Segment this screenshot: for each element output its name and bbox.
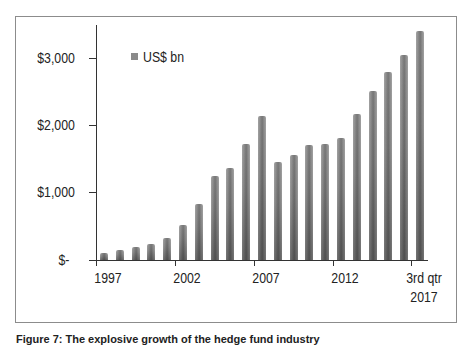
legend-label: US$ bn — [143, 47, 184, 66]
bar-2014 — [369, 91, 377, 260]
x-tick-label-3rd-qtr: 3rd qtr — [398, 268, 450, 287]
x-tick-label-2002: 2002 — [171, 268, 204, 287]
bar-3rd-qtr-2017 — [416, 31, 424, 260]
legend-swatch — [131, 53, 138, 60]
figure-caption: Figure 7: The explosive growth of the he… — [16, 333, 320, 345]
bar-1999 — [132, 247, 140, 260]
bar-2006 — [242, 144, 250, 260]
bar-2002 — [179, 225, 187, 260]
y-tick — [89, 58, 96, 59]
bar-1997 — [100, 253, 108, 260]
y-axis — [96, 25, 97, 261]
y-tick-label-0: $- — [58, 252, 69, 267]
bar-2007 — [258, 116, 266, 260]
x-tick — [411, 260, 412, 266]
bar-2012 — [337, 138, 345, 260]
bar-2010 — [305, 145, 313, 260]
y-tick-label-1000: $1,000 — [37, 184, 75, 199]
bar-2008 — [274, 162, 282, 260]
bar-2001 — [163, 238, 171, 260]
bar-1998 — [116, 250, 124, 260]
x-tick — [96, 260, 97, 266]
bar-2003 — [195, 204, 203, 260]
y-tick-label-3000: $3,000 — [37, 50, 75, 65]
x-tick — [333, 260, 334, 266]
bar-2016 — [400, 55, 408, 260]
bar-2009 — [290, 155, 298, 260]
bar-2013 — [353, 114, 361, 260]
x-tick-label-2017: 2017 — [398, 287, 450, 306]
x-tick-label-2007: 2007 — [250, 268, 283, 287]
bar-2015 — [384, 72, 392, 260]
x-tick-label-1997: 1997 — [92, 268, 125, 287]
bar-2004 — [211, 176, 219, 260]
x-axis — [89, 260, 428, 261]
bar-2011 — [321, 144, 329, 260]
bar-2005 — [226, 168, 234, 260]
x-tick — [254, 260, 255, 266]
bar-2000 — [147, 244, 155, 260]
y-tick — [89, 192, 96, 193]
y-tick — [89, 125, 96, 126]
x-tick — [175, 260, 176, 266]
y-tick-label-2000: $2,000 — [37, 117, 75, 132]
x-tick-label-2012: 2012 — [329, 268, 362, 287]
